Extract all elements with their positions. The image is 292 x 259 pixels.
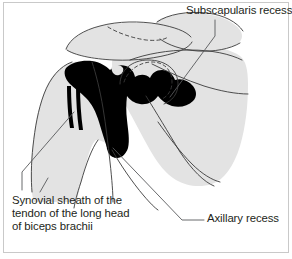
label-synovial-line-1: Synovial sheath of the (12, 194, 122, 206)
bone-silhouette-group (31, 13, 248, 206)
scapula-silhouette (112, 43, 248, 186)
label-synovial-sheath: Synovial sheath of the tendon of the lon… (12, 194, 129, 234)
label-synovial-line-3: of biceps brachii (12, 220, 93, 232)
label-subscapularis-recess: Subscapularis recess (186, 4, 292, 17)
anatomy-figure: Subscapularis recess Synovial sheath of … (0, 0, 292, 259)
label-synovial-line-2: tendon of the long head (12, 207, 129, 219)
label-axillary-recess: Axillary recess (207, 212, 279, 225)
